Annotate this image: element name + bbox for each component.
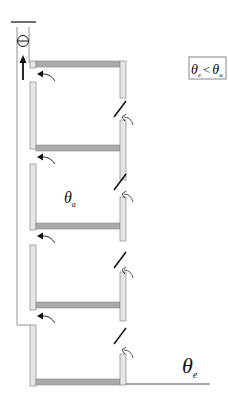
shaft-upflow-arrow-icon [20, 55, 27, 80]
ventilation-diagram: θe<θa θa θe [0, 0, 228, 408]
floor-slab-2 [36, 145, 120, 151]
facade-walls [120, 61, 126, 385]
floor-slab-3 [36, 223, 120, 229]
less-than-operator: < [203, 62, 210, 77]
floor-slab-4 [36, 302, 120, 308]
condition-box: θe<θa [189, 57, 226, 79]
floor-slab-5 [36, 379, 120, 385]
floor-slab-1 [36, 61, 120, 67]
exterior-temperature-label: θe [182, 353, 198, 380]
exhaust-fan-icon [18, 36, 29, 47]
interior-temperature-label: θa [64, 189, 76, 209]
shaft-inflow-arrow-icons [41, 74, 55, 323]
floor-slabs [36, 61, 120, 385]
svg-text:θe<θa: θe<θa [191, 62, 223, 79]
shaft-side-walls [30, 61, 36, 386]
shaft-inflow-arrowheads [37, 71, 43, 320]
